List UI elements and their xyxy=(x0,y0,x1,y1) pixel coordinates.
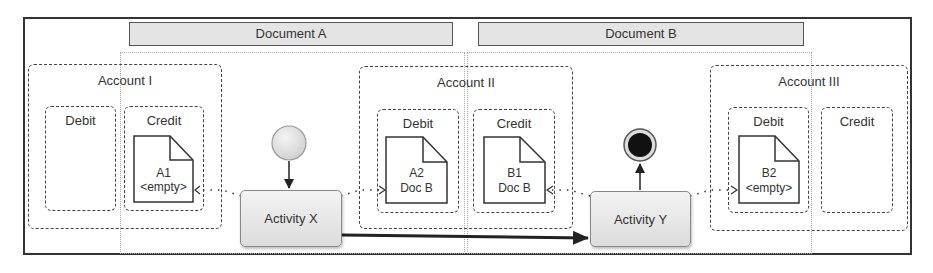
slot-label: Debit xyxy=(378,116,458,131)
document-a-header[interactable]: Document A xyxy=(129,22,453,46)
account-i-debit[interactable]: Debit xyxy=(45,106,116,211)
data-object-name: B1 xyxy=(484,166,545,180)
account-label: Account III xyxy=(711,74,907,89)
data-object-state: Doc B xyxy=(484,181,545,195)
document-b-header[interactable]: Document B xyxy=(478,22,804,46)
data-object-state: <empty> xyxy=(134,180,193,194)
activity-x[interactable]: Activity X xyxy=(240,190,342,247)
slot-label: Credit xyxy=(822,114,892,129)
data-object-state: Doc B xyxy=(386,181,447,195)
account-label: Account II xyxy=(360,75,572,90)
data-object-state: <empty> xyxy=(739,181,799,195)
slot-label: Debit xyxy=(729,114,808,129)
data-object-a2[interactable]: A2 Doc B xyxy=(386,162,447,203)
data-object-name: A2 xyxy=(386,166,447,180)
data-object-name: A1 xyxy=(134,166,193,180)
slot-label: Debit xyxy=(46,113,115,128)
account-label: Account I xyxy=(29,73,221,88)
slot-label: Credit xyxy=(125,113,203,128)
data-object-name: B2 xyxy=(739,166,799,180)
data-object-a1[interactable]: A1 <empty> xyxy=(134,162,193,202)
slot-label: Credit xyxy=(474,116,554,131)
account-iii-credit[interactable]: Credit xyxy=(821,107,893,213)
data-object-b1[interactable]: B1 Doc B xyxy=(484,162,545,203)
data-object-b2[interactable]: B2 <empty> xyxy=(739,162,799,203)
activity-y[interactable]: Activity Y xyxy=(590,191,691,247)
